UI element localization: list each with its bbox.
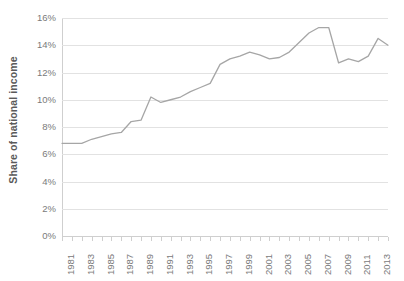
y-tick-label: 8% xyxy=(42,122,56,132)
x-tick-label: 1985 xyxy=(106,254,116,275)
x-tick xyxy=(260,237,261,241)
plot-area xyxy=(62,18,388,236)
x-tick xyxy=(190,237,191,241)
x-tick xyxy=(319,237,320,241)
series-polyline xyxy=(62,28,388,144)
x-tick-label: 1989 xyxy=(145,254,155,275)
x-tick xyxy=(329,237,330,241)
x-tick xyxy=(161,237,162,241)
x-tick xyxy=(171,237,172,241)
x-axis-ticks xyxy=(62,237,388,242)
x-tick xyxy=(368,237,369,241)
y-tick-label: 10% xyxy=(37,95,56,105)
line-chart: Share of national income 0%2%4%6%8%10%12… xyxy=(0,0,404,281)
x-tick xyxy=(131,237,132,241)
y-tick-label: 16% xyxy=(37,13,56,23)
x-tick-label: 2007 xyxy=(323,254,333,275)
x-tick xyxy=(72,237,73,241)
x-tick xyxy=(141,237,142,241)
x-tick xyxy=(151,237,152,241)
x-tick xyxy=(289,237,290,241)
y-axis-title: Share of national income xyxy=(0,0,26,240)
x-tick xyxy=(82,237,83,241)
y-tick-label: 2% xyxy=(42,204,56,214)
x-tick xyxy=(230,237,231,241)
x-tick-label: 2005 xyxy=(303,254,313,275)
x-tick-label: 2013 xyxy=(382,254,392,275)
x-tick xyxy=(111,237,112,241)
y-tick-label: 12% xyxy=(37,68,56,78)
x-tick xyxy=(388,237,389,241)
x-tick xyxy=(200,237,201,241)
x-tick xyxy=(378,237,379,241)
x-axis-tick-labels: 1981198319851987198919911993199519971999… xyxy=(62,243,388,281)
x-tick xyxy=(210,237,211,241)
y-tick-label: 6% xyxy=(42,149,56,159)
y-axis-tick-labels: 0%2%4%6%8%10%12%14%16% xyxy=(24,0,60,281)
x-tick-label: 2011 xyxy=(362,255,372,275)
x-tick xyxy=(299,237,300,241)
x-tick-label: 1999 xyxy=(244,254,254,275)
y-tick-label: 0% xyxy=(42,231,56,241)
y-tick-label: 14% xyxy=(37,40,56,50)
x-tick xyxy=(250,237,251,241)
series-line xyxy=(62,18,388,236)
x-tick-label: 1987 xyxy=(125,254,135,275)
x-tick-label: 1997 xyxy=(224,254,234,275)
x-tick-label: 1991 xyxy=(165,254,175,275)
x-tick-label: 1995 xyxy=(204,254,214,275)
x-tick xyxy=(358,237,359,241)
x-tick xyxy=(62,237,63,241)
x-tick-label: 2003 xyxy=(283,254,293,275)
x-tick xyxy=(339,237,340,241)
x-tick-label: 2001 xyxy=(264,254,274,275)
x-tick xyxy=(309,237,310,241)
y-axis-title-label: Share of national income xyxy=(7,56,19,183)
x-tick xyxy=(269,237,270,241)
x-tick xyxy=(348,237,349,241)
x-tick-label: 1981 xyxy=(66,254,76,275)
x-tick xyxy=(102,237,103,241)
y-tick-label: 4% xyxy=(42,177,56,187)
x-tick xyxy=(220,237,221,241)
x-tick xyxy=(92,237,93,241)
x-tick-label: 1993 xyxy=(185,254,195,275)
x-tick xyxy=(121,237,122,241)
x-tick-label: 1983 xyxy=(86,254,96,275)
x-tick xyxy=(279,237,280,241)
x-tick-label: 2009 xyxy=(343,254,353,275)
x-tick xyxy=(181,237,182,241)
x-tick xyxy=(240,237,241,241)
